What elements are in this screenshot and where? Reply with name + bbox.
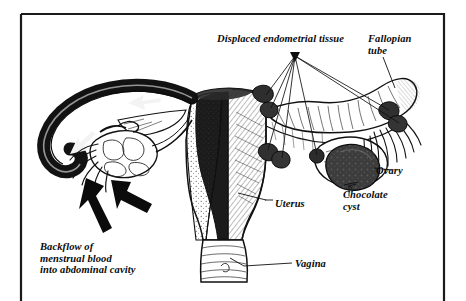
label-displaced-endometrial-tissue: Displaced endometrial tissue	[217, 33, 344, 45]
label-chocolate-cyst: Chocolate cyst	[343, 189, 388, 212]
label-vagina: Vagina	[295, 258, 326, 270]
backflow-arrows	[79, 178, 152, 233]
label-uterus: Uterus	[275, 198, 305, 210]
label-fallopian-tube: Fallopian tube	[368, 33, 412, 56]
vagina-canal	[201, 239, 248, 283]
label-ovary: Ovary	[376, 165, 403, 177]
uterus-body	[186, 88, 266, 240]
label-backflow-caption: Backflow of menstrual blood into abdomin…	[40, 241, 135, 276]
endometriosis-illustration: Displaced endometrial tissue Fallopian t…	[0, 0, 466, 301]
